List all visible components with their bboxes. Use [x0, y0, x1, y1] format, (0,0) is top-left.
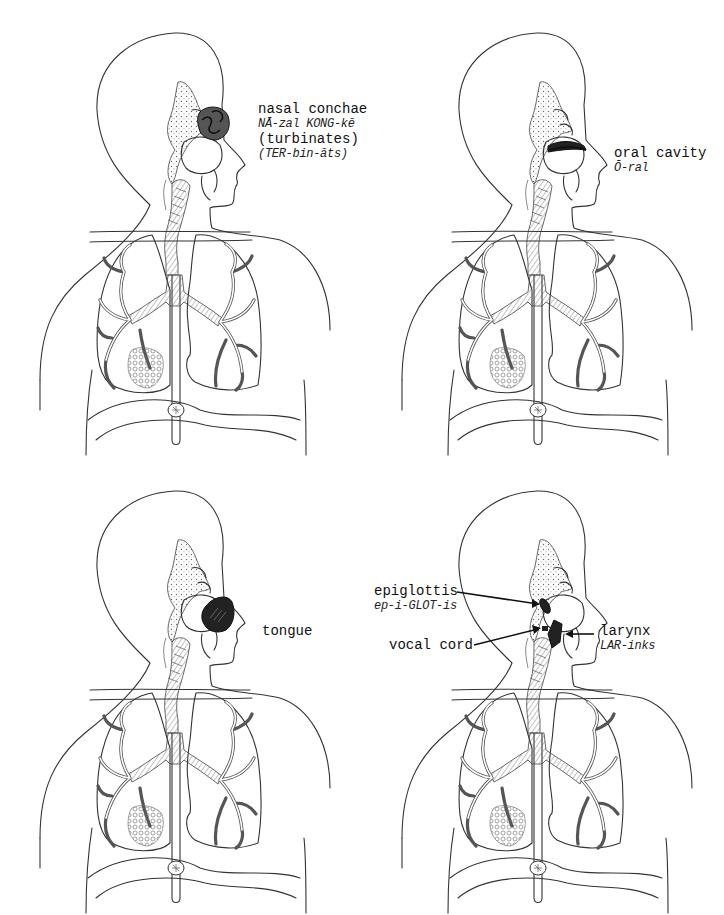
- respiratory-figure: [0, 458, 362, 915]
- term: larynx: [600, 624, 655, 639]
- panel-oral-cavity: oral cavity Ō-ral: [362, 0, 724, 457]
- respiratory-figure: [362, 458, 724, 915]
- term: (turbinates): [258, 132, 367, 147]
- panel-tongue: tongue: [0, 458, 362, 915]
- respiratory-figure: [362, 0, 724, 457]
- label-larynx: larynx LAR-inks: [600, 624, 655, 654]
- panel-nasal-conchae: nasal conchae NĀ-zal KONG-kē (turbinates…: [0, 0, 362, 457]
- label-vocal-cord: vocal cord: [389, 638, 473, 653]
- respiratory-figure: [0, 0, 362, 457]
- pronunciation: (TER-bin-āts): [258, 147, 367, 162]
- vocal-cord-highlight: [542, 626, 548, 631]
- label-nasal-conchae: nasal conchae NĀ-zal KONG-kē (turbinates…: [258, 102, 367, 162]
- panel-larynx: epiglottis ep-i-GLOT-is vocal cord laryn…: [362, 458, 724, 915]
- label-tongue: tongue: [262, 624, 312, 639]
- term: oral cavity: [614, 146, 706, 161]
- label-oral-cavity: oral cavity Ō-ral: [614, 146, 706, 176]
- label-epiglottis: epiglottis ep-i-GLOT-is: [374, 584, 458, 614]
- pronunciation: ep-i-GLOT-is: [374, 599, 458, 614]
- term: epiglottis: [374, 584, 458, 599]
- pronunciation: LAR-inks: [600, 639, 655, 654]
- term: nasal conchae: [258, 102, 367, 117]
- pronunciation: Ō-ral: [614, 161, 706, 176]
- pronunciation: NĀ-zal KONG-kē: [258, 117, 367, 132]
- epiglottis-arrow: [457, 592, 540, 608]
